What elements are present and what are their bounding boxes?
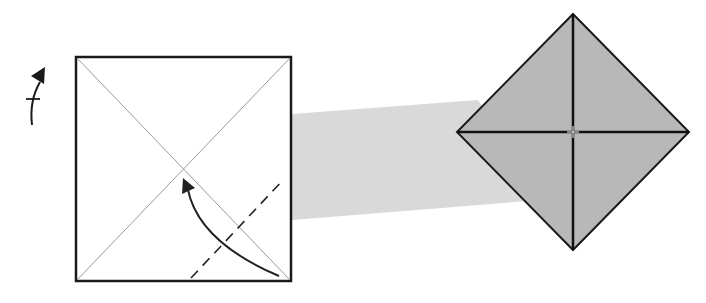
result-diamond bbox=[457, 14, 689, 250]
origami-diagram bbox=[0, 0, 706, 303]
square-paper bbox=[76, 57, 291, 281]
turn-over-icon bbox=[26, 67, 45, 125]
